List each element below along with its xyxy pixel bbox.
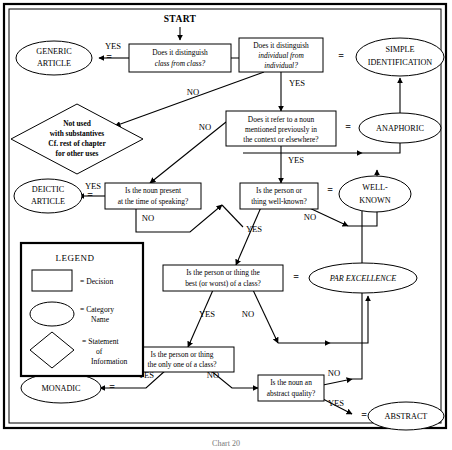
start-label: START xyxy=(164,14,197,24)
category-generic-line1: GENERIC xyxy=(36,47,72,56)
edge-label-d6-yes: YES xyxy=(199,309,215,319)
decision-d6-line1: Is the person or thing the xyxy=(186,268,260,277)
edge-label-d3-yes: YES xyxy=(288,155,304,165)
category-monadic[interactable]: MONADIC xyxy=(21,373,101,403)
category-abstract-line1: ABSTRACT xyxy=(385,412,428,421)
figure-caption: Chart 20 xyxy=(212,439,240,448)
decision-d3-line3: the context or elsewhere? xyxy=(243,135,318,144)
category-simple-identification[interactable]: SIMPLE IDENTIFICATION xyxy=(356,38,444,76)
edge-label-d2-no: NO xyxy=(187,87,199,97)
decision-d5[interactable]: Is the person or thing well-known? xyxy=(240,183,318,209)
equals-parexcellence: = xyxy=(293,271,299,282)
edge-d3-no xyxy=(150,122,226,183)
flowchart-figure: YES NO NO YES NO YES YES NO YES NO YES N… xyxy=(0,0,452,450)
statement-line2: with substantives xyxy=(50,129,105,138)
equals-wellknown: = xyxy=(327,184,333,195)
decision-d1[interactable]: Does it distinguish class from class? xyxy=(129,44,231,72)
edge-label-d2-yes: YES xyxy=(289,78,305,88)
legend-category-label-1: = Category xyxy=(80,305,114,314)
equals-abstract: = xyxy=(361,409,367,420)
decision-d8-line2: abstract quality? xyxy=(267,389,316,398)
category-anaphoric-line1: ANAPHORIC xyxy=(376,124,424,133)
edge-label-d5-no: NO xyxy=(304,212,316,222)
category-anaphoric[interactable]: ANAPHORIC xyxy=(359,113,441,143)
legend: LEGEND = Decision = Category Name = Stat… xyxy=(21,243,143,376)
decision-d8[interactable]: Is the noun an abstract quality? xyxy=(258,375,324,401)
decision-d5-line1: Is the person or xyxy=(256,186,302,195)
category-deictic-line1: DEICTIC xyxy=(32,185,65,194)
statement-not-used[interactable]: Not used with substantives Cf. rest of c… xyxy=(11,104,143,174)
decision-d3-line2: mentioned previously in xyxy=(245,125,317,134)
category-abstract[interactable]: ABSTRACT xyxy=(368,402,444,430)
equals-generic: = xyxy=(106,51,112,62)
decision-d4-line1: Is the noun present xyxy=(125,186,182,195)
decision-d5-line2: thing well-known? xyxy=(251,197,307,206)
category-well-known[interactable]: WELL- KNOWN xyxy=(339,176,411,212)
decision-d1-line2: class from class? xyxy=(155,59,206,68)
edge-label-d5-yes: YES xyxy=(246,224,262,234)
legend-category-label-2: Name xyxy=(91,315,110,324)
category-simple-line1: SIMPLE xyxy=(385,45,414,54)
decision-d8-line1: Is the noun an xyxy=(270,378,312,387)
decision-d6[interactable]: Is the person or thing the best (or wors… xyxy=(163,265,283,291)
decision-d2-line3: individual? xyxy=(264,61,298,70)
decision-d2-line2: individual from xyxy=(258,51,304,60)
edge-d8-no xyxy=(323,379,352,385)
statement-line4: for other uses xyxy=(56,149,99,158)
category-simple-line2: IDENTIFICATION xyxy=(368,58,433,67)
category-deictic-article[interactable]: DEICTIC ARTICLE xyxy=(14,179,82,213)
legend-category-shape xyxy=(30,302,74,326)
category-generic-article[interactable]: GENERIC ARTICLE xyxy=(16,41,92,75)
decision-d7-line2: the only one of a class? xyxy=(147,360,216,369)
category-generic-line2: ARTICLE xyxy=(37,59,71,68)
category-wellknown-line2: KNOWN xyxy=(359,196,390,205)
decision-d7[interactable]: Is the person or thing the only one of a… xyxy=(130,347,234,372)
category-wellknown-line1: WELL- xyxy=(362,183,388,192)
edge-label-d6-no: NO xyxy=(242,309,254,319)
edge-label-d8-no: NO xyxy=(328,368,340,378)
category-parexcellence-line1: PAR EXCELLENCE xyxy=(329,274,397,283)
edge-d6-no xyxy=(253,290,278,343)
decision-d2-line1: Does it distinguish xyxy=(253,41,309,50)
legend-decision-label: = Decision xyxy=(80,277,113,286)
legend-statement-label-1: = Statement xyxy=(82,337,119,346)
equals-deictic: = xyxy=(87,189,93,200)
statement-line1: Not used xyxy=(63,119,92,128)
equals-monadic: = xyxy=(109,381,115,392)
legend-title: LEGEND xyxy=(56,253,95,263)
edge-label-d1-yes: YES xyxy=(105,41,121,51)
decision-d3[interactable]: Does it refer to a noun mentioned previo… xyxy=(226,111,336,146)
category-deictic-line2: ARTICLE xyxy=(31,197,65,206)
decision-d1-line1: Does it distinguish xyxy=(152,48,208,57)
decision-d7-line1: Is the person or thing xyxy=(151,350,214,359)
statement-line3: Cf. rest of chapter xyxy=(48,139,106,148)
category-par-excellence[interactable]: PAR EXCELLENCE xyxy=(309,263,417,293)
decision-d2[interactable]: Does it distinguish individual from indi… xyxy=(239,38,323,72)
equals-anaphoric: = xyxy=(345,121,351,132)
edge-d5-yes xyxy=(236,205,262,265)
legend-decision-shape xyxy=(32,270,72,291)
decision-d6-line2: best (or worst) of a class? xyxy=(185,279,261,288)
edge-label-d4-no: NO xyxy=(142,213,154,223)
legend-statement-label-3: Information xyxy=(91,357,127,366)
edge-label-d8-yes: YES xyxy=(328,398,344,408)
legend-statement-label-2: of xyxy=(96,347,103,356)
category-monadic-line1: MONADIC xyxy=(41,384,81,393)
edge-label-d3-no: NO xyxy=(199,122,211,132)
decision-d3-line1: Does it refer to a noun xyxy=(248,115,315,124)
decision-d4[interactable]: Is the noun present at the time of speak… xyxy=(105,183,201,209)
equals-simple: = xyxy=(338,50,344,61)
decision-d4-line2: at the time of speaking? xyxy=(118,197,189,206)
